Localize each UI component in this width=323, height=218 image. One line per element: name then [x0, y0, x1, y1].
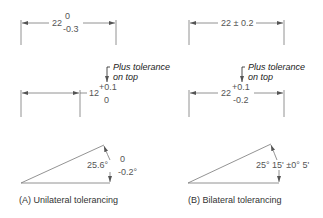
angle-text: 25° 15' ±0° 5' — [256, 160, 309, 170]
panel-a-note: Plus tolerance on top — [107, 62, 170, 82]
caption-a: (A) Unilateral tolerancing — [19, 195, 118, 205]
note-line2: on top — [248, 72, 273, 82]
dim2-upper: +0.1 — [99, 82, 117, 92]
caption-b: (B) Bilateral tolerancing — [188, 195, 282, 205]
panel-b-dim1: 22 ± 0.2 — [189, 18, 284, 45]
dim2-base: 12 — [89, 88, 99, 98]
dim1-lower: -0.3 — [63, 24, 79, 34]
dim2-upper: +0.1 — [232, 82, 250, 92]
dim1-text: 22 ± 0.2 — [221, 18, 253, 28]
dim2-lower: 0 — [104, 95, 109, 105]
note-line2: on top — [113, 72, 138, 82]
dim2-base: 22 — [221, 88, 231, 98]
panel-a-dim1: 22 0 -0.3 — [21, 11, 116, 45]
panel-a-angle: 25.6° 0 -0.2° — [21, 145, 138, 183]
angle-lower: -0.2° — [118, 167, 138, 177]
panel-b-note: Plus tolerance on top — [242, 62, 305, 82]
note-line1: Plus tolerance — [248, 62, 305, 72]
dim1-base: 22 — [52, 18, 62, 28]
panel-b-dim2: 22 +0.1 -0.2 — [189, 82, 284, 117]
angle-base: 25.6° — [87, 160, 109, 170]
tolerancing-diagram: 22 0 -0.3 Plus tolerance on top 12 +0.1 … — [0, 0, 323, 218]
note-line1: Plus tolerance — [113, 62, 170, 72]
panel-b-angle: 25° 15' ±0° 5' — [188, 144, 309, 183]
dim2-lower: -0.2 — [233, 95, 249, 105]
panel-a-dim2: 12 +0.1 0 — [21, 82, 117, 117]
angle-upper: 0 — [120, 154, 125, 164]
dim1-upper: 0 — [65, 11, 70, 21]
